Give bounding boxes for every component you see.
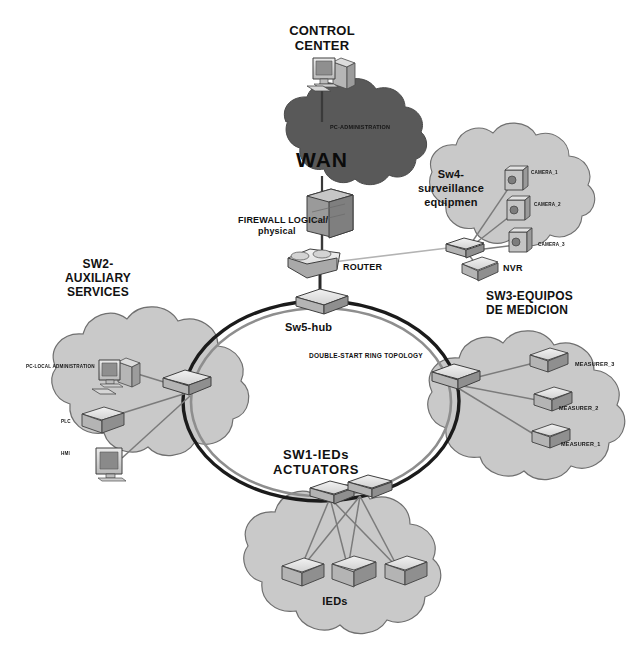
sw2-title-line1: SW2- — [43, 258, 153, 271]
sw1-title-line2: ACTUATORS — [241, 463, 391, 477]
sw1-title-line1: SW1-IEDs — [241, 448, 391, 462]
router-label: ROUTER — [343, 262, 382, 272]
device-hmi — [96, 448, 126, 481]
pc-administration-label: PC-ADMINISTRATION — [330, 124, 390, 131]
device-firewall — [307, 189, 353, 238]
sw2-title-line2: AUXILIARY — [43, 272, 153, 285]
device-camera-3 — [509, 228, 532, 252]
hmi-label: HMI — [61, 451, 70, 457]
diagram-canvas: CONTROL CENTER WAN PC-ADMINISTRATION FIR… — [0, 0, 636, 648]
sw4-title-line3: equipmen — [406, 196, 496, 208]
ieds-cloud-label: IEDs — [305, 595, 365, 607]
device-control-center-pc — [307, 58, 355, 91]
plc-label: PLC — [61, 419, 71, 425]
sw3-title-line1: SW3-EQUIPOS — [486, 290, 573, 303]
measurer-3-label: MEASURER_3 — [575, 361, 615, 368]
device-router — [288, 249, 340, 278]
device-camera-1 — [505, 166, 528, 190]
measurer-2-label: MEASURER_2 — [559, 405, 599, 412]
pc-local-administration-label: PC-LOCAL ADMINISTRATION — [26, 364, 95, 370]
sw2-title-line3: SERVICES — [43, 286, 153, 299]
link-router-to-sw4 — [333, 247, 456, 262]
measurer-1-label: MEASURER_1 — [561, 441, 601, 448]
control-center-label-line2: CENTER — [272, 39, 372, 53]
camera-1-label: CAMERA_1 — [531, 170, 558, 176]
sw4-title-line2: surveillance — [406, 182, 496, 194]
ring-topology-label: DOUBLE-START RING TOPOLOGY — [309, 352, 423, 360]
firewall-label-line2: physical — [258, 226, 296, 236]
control-center-label-line1: CONTROL — [272, 24, 372, 38]
sw3-title-line2: DE MEDICION — [486, 304, 568, 317]
nvr-label: NVR — [503, 263, 523, 273]
firewall-label-line1: FIREWALL LOGICal/ — [238, 215, 328, 225]
wan-label: WAN — [282, 148, 362, 172]
camera-2-label: CAMERA_2 — [534, 202, 561, 208]
sw5-hub-label: Sw5-hub — [285, 321, 332, 333]
device-nvr — [462, 257, 498, 281]
device-camera-2 — [507, 196, 530, 220]
camera-3-label: CAMERA_3 — [538, 242, 565, 248]
sw4-title-line1: Sw4- — [411, 168, 491, 180]
